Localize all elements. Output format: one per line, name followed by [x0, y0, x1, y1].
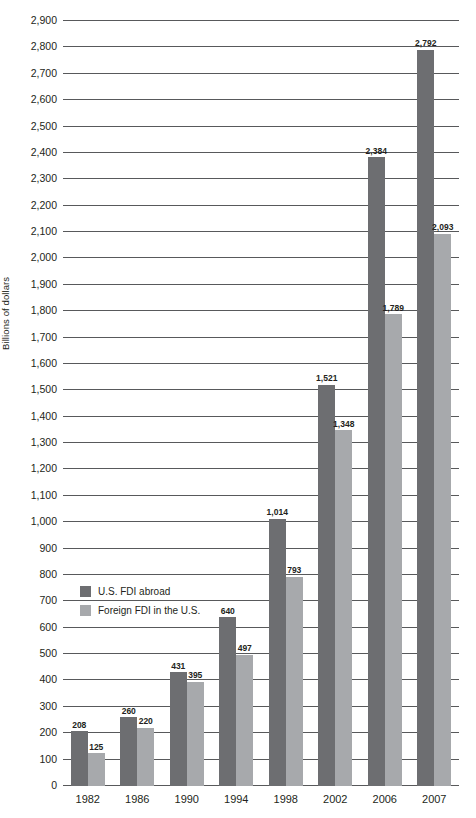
bar[interactable]: 1,014	[269, 519, 286, 786]
y-axis-tick-label: 2,000	[31, 252, 57, 263]
bar-value-label: 1,014	[267, 508, 288, 517]
x-axis-category-label: 2006	[373, 794, 397, 805]
bar-value-label: 2,792	[415, 39, 436, 48]
bar[interactable]: 208	[71, 731, 88, 786]
bar-value-label: 2,093	[432, 223, 453, 232]
bar[interactable]: 497	[236, 655, 253, 786]
x-axis-category-label: 1986	[125, 794, 149, 805]
y-axis-tick-label: 2,800	[31, 41, 57, 52]
bar[interactable]: 125	[88, 753, 105, 786]
y-axis-tick-label: 200	[39, 727, 57, 738]
bar[interactable]: 2,792	[417, 50, 434, 787]
y-axis-tick-label: 600	[39, 621, 57, 632]
y-axis-tick-label: 700	[39, 595, 57, 606]
y-axis-tick-label: 1,700	[31, 331, 57, 342]
bar-value-label: 125	[89, 743, 103, 752]
y-axis-tick-label: 1,000	[31, 516, 57, 527]
bar-group: 6404971994	[219, 21, 253, 786]
bar-group: 2081251982	[71, 21, 105, 786]
y-axis-title: Billions of dollars	[0, 190, 14, 350]
y-axis-tick-label: 2,200	[31, 199, 57, 210]
bar[interactable]: 2,384	[368, 157, 385, 786]
bar-value-label: 431	[171, 662, 185, 671]
chart-legend: U.S. FDI abroadForeign FDI in the U.S.	[80, 582, 202, 620]
bar-group: 2,7922,0932007	[417, 21, 451, 786]
y-axis-tick-label: 2,600	[31, 94, 57, 105]
bar-value-label: 793	[287, 566, 301, 575]
y-axis-tick-label: 1,300	[31, 437, 57, 448]
y-axis-tick-label: 100	[39, 753, 57, 764]
legend-color-swatch	[80, 605, 91, 616]
bar-group: 1,0147931998	[269, 21, 303, 786]
x-axis-category-label: 1990	[175, 794, 199, 805]
y-axis-tick-label: 2,300	[31, 173, 57, 184]
x-axis-category-label: 1998	[274, 794, 298, 805]
bar-value-label: 640	[221, 607, 235, 616]
bar[interactable]: 1,789	[385, 314, 402, 786]
bar-value-label: 260	[122, 707, 136, 716]
bar[interactable]: 431	[170, 672, 187, 786]
bar[interactable]: 220	[137, 728, 154, 786]
y-axis-tick-label: 1,200	[31, 463, 57, 474]
bar-value-label: 208	[72, 721, 86, 730]
y-axis-tick-label: 1,600	[31, 358, 57, 369]
bar-group: 1,5211,3482002	[318, 21, 352, 786]
y-axis-tick-label: 800	[39, 569, 57, 580]
y-axis-tick-label: 1,500	[31, 384, 57, 395]
legend-label: U.S. FDI abroad	[98, 587, 170, 597]
legend-color-swatch	[80, 586, 91, 597]
legend-item[interactable]: Foreign FDI in the U.S.	[80, 601, 202, 620]
bar-chart: Billions of dollars 01002003004005006007…	[0, 0, 476, 818]
bar[interactable]: 1,521	[318, 385, 335, 786]
y-axis-tick-label: 0	[51, 780, 57, 791]
x-axis-category-label: 1994	[224, 794, 248, 805]
bar-value-label: 1,521	[316, 374, 337, 383]
bar[interactable]: 2,093	[434, 234, 451, 786]
bar-value-label: 497	[238, 644, 252, 653]
bar[interactable]: 260	[120, 717, 137, 786]
y-axis-tick-label: 1,100	[31, 490, 57, 501]
y-axis-tick-label: 1,900	[31, 279, 57, 290]
legend-item[interactable]: U.S. FDI abroad	[80, 582, 202, 601]
bar[interactable]: 395	[187, 682, 204, 786]
y-axis-tick-label: 300	[39, 701, 57, 712]
y-axis-tick-label: 2,100	[31, 226, 57, 237]
bar-value-label: 1,789	[383, 304, 404, 313]
bar-group: 4313951990	[170, 21, 204, 786]
bar-value-label: 395	[188, 671, 202, 680]
legend-label: Foreign FDI in the U.S.	[98, 606, 200, 616]
bar[interactable]: 640	[219, 617, 236, 786]
y-axis-tick-label: 1,800	[31, 305, 57, 316]
bar[interactable]: 1,348	[335, 430, 352, 786]
bar-value-label: 1,348	[333, 420, 354, 429]
y-axis-tick-label: 400	[39, 674, 57, 685]
y-axis-tick-label: 2,900	[31, 15, 57, 26]
y-axis-tick-label: 2,700	[31, 68, 57, 79]
plot-area: 01002003004005006007008009001,0001,1001,…	[63, 21, 459, 786]
y-axis-tick-label: 2,500	[31, 120, 57, 131]
bar-group: 2,3841,7892006	[368, 21, 402, 786]
x-axis-category-label: 2002	[323, 794, 347, 805]
bar-value-label: 220	[139, 717, 153, 726]
y-axis-tick-label: 2,400	[31, 147, 57, 158]
y-axis-tick-label: 500	[39, 648, 57, 659]
bar-group: 2602201986	[120, 21, 154, 786]
y-axis-tick-label: 1,400	[31, 410, 57, 421]
x-axis-category-label: 2007	[422, 794, 446, 805]
bar-value-label: 2,384	[366, 147, 387, 156]
y-axis-tick-label: 900	[39, 542, 57, 553]
bar[interactable]: 793	[286, 577, 303, 786]
x-axis-category-label: 1982	[76, 794, 100, 805]
